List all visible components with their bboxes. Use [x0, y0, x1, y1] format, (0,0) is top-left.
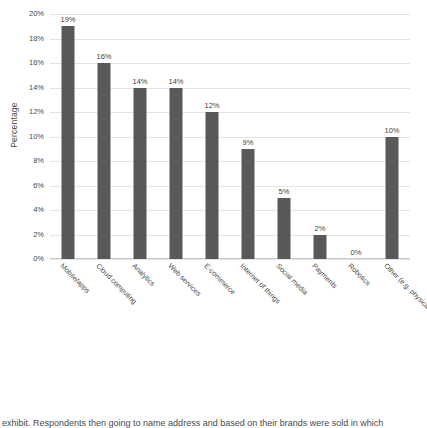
bar-value-label: 14%: [132, 78, 147, 86]
bar-slot: 19%: [50, 14, 86, 259]
x-category-label: E-commerce: [202, 262, 236, 296]
bar[interactable]: [170, 88, 183, 260]
bar-slot: 10%: [374, 14, 410, 259]
bars-layer: 19%16%14%14%12%9%5%2%0%10%: [50, 14, 410, 259]
bar-value-label: 14%: [168, 78, 183, 86]
x-category-label: Web services: [166, 262, 202, 298]
y-tick-label: 2%: [33, 231, 44, 239]
bar-slot: 5%: [266, 14, 302, 259]
bar-slot: 0%: [338, 14, 374, 259]
bar-chart-figure: Percentage 20%18%16%14%12%10%8%6%4%2%0% …: [0, 0, 427, 428]
bar[interactable]: [314, 235, 327, 260]
bar-value-label: 10%: [384, 127, 399, 135]
y-tick-label: 16%: [29, 59, 44, 67]
bar-slot: 14%: [122, 14, 158, 259]
y-tick-label: 8%: [33, 157, 44, 165]
bar-slot: 14%: [158, 14, 194, 259]
x-category-label: Robotics: [346, 262, 371, 287]
bar-value-label: 12%: [204, 102, 219, 110]
y-tick-label: 6%: [33, 182, 44, 190]
y-axis-tick-labels: 20%18%16%14%12%10%8%6%4%2%0%: [0, 0, 48, 428]
x-category-label: Mobile/apps: [58, 262, 91, 295]
y-tick-label: 4%: [33, 206, 44, 214]
y-tick-label: 0%: [33, 255, 44, 263]
plot-area: 19%16%14%14%12%9%5%2%0%10%: [50, 14, 410, 259]
y-tick-label: 14%: [29, 84, 44, 92]
x-axis-category-labels: Mobile/appsCloud computingAnalyticsWeb s…: [50, 262, 410, 422]
caption-text: exhibit. Respondents then going to name …: [2, 418, 383, 428]
bar-slot: 12%: [194, 14, 230, 259]
bar[interactable]: [278, 198, 291, 259]
bar-value-label: 16%: [96, 53, 111, 61]
bar-slot: 2%: [302, 14, 338, 259]
bar[interactable]: [206, 112, 219, 259]
bar-slot: 16%: [86, 14, 122, 259]
bar[interactable]: [98, 63, 111, 259]
bar[interactable]: [134, 88, 147, 260]
bar-value-label: 9%: [243, 139, 254, 147]
gridline: [50, 259, 410, 260]
y-tick-label: 18%: [29, 35, 44, 43]
x-category-label: Other (e.g. physical tech products, adve…: [382, 262, 427, 411]
bar-value-label: 0%: [351, 249, 362, 257]
caption-strip: exhibit. Respondents then going to name …: [0, 418, 427, 428]
bar[interactable]: [242, 149, 255, 259]
y-tick-label: 20%: [29, 10, 44, 18]
x-category-label: Social media: [274, 262, 309, 297]
bar-value-label: 19%: [60, 16, 75, 24]
y-tick-label: 10%: [29, 133, 44, 141]
bar[interactable]: [62, 26, 75, 259]
bar[interactable]: [386, 137, 399, 260]
x-category-label: Payments: [310, 262, 338, 290]
y-tick-label: 12%: [29, 108, 44, 116]
bar-slot: 9%: [230, 14, 266, 259]
bar-value-label: 2%: [315, 225, 326, 233]
bar-value-label: 5%: [279, 188, 290, 196]
x-category-label: Analytics: [130, 262, 156, 288]
